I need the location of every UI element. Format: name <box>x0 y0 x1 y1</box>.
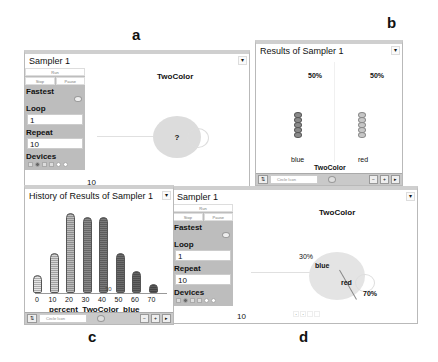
speed-label: Fastest <box>173 221 233 232</box>
plus-button[interactable]: + <box>380 175 389 184</box>
bead-blue <box>294 132 302 138</box>
device-selector <box>173 297 233 306</box>
red-percent: 50% <box>370 72 384 79</box>
histogram-bar <box>132 271 141 293</box>
results-window-b: Results of Sampler 1 ▾ 50% 50% blue red … <box>255 40 403 186</box>
sampler-window-d: Sampler 1 ▾ Run Stop Pause Fastest Loop … <box>172 186 418 324</box>
loop-label: Loop <box>25 102 85 113</box>
bead-red <box>358 132 366 138</box>
device-title: TwoColor <box>319 208 355 217</box>
device-title: TwoColor <box>157 72 193 81</box>
window-title: Results of Sampler 1 <box>256 44 402 58</box>
sort-icon[interactable]: ⇅ <box>27 314 37 323</box>
figure-label-c: c <box>88 328 96 345</box>
repeat-label: Repeat <box>173 262 233 273</box>
device-box-icon[interactable] <box>28 162 33 167</box>
pie-option-button[interactable] <box>314 311 320 317</box>
icon-select[interactable]: Circle Icon <box>39 314 87 323</box>
loop-input[interactable]: 1 <box>27 114 83 125</box>
play-button[interactable]: ▸ <box>391 175 400 184</box>
window-menu-button[interactable]: ▾ <box>391 46 400 55</box>
column-divider <box>334 62 335 162</box>
device-box-icon[interactable] <box>176 298 181 303</box>
device-mixer-icon[interactable] <box>190 298 195 303</box>
device-spinner-icon[interactable] <box>183 298 188 303</box>
sampler-controls: Run Stop Pause Fastest Loop 1 Repeat 10 … <box>25 68 85 170</box>
device-wheel-icon[interactable] <box>211 298 216 303</box>
histogram-bar <box>99 217 108 293</box>
histogram-bar <box>66 213 75 293</box>
results-toolbar: ⇅ Circle Icon − + ▸ <box>256 173 402 185</box>
blue-category-label: blue <box>291 156 304 163</box>
histogram-bar <box>149 284 158 293</box>
plus-button[interactable]: + <box>151 314 160 323</box>
repeat-input[interactable]: 10 <box>175 274 231 285</box>
history-window-c: History of Results of Sampler 1 ▾ 30 010… <box>24 185 174 325</box>
red-slice-label: red <box>341 279 352 286</box>
pause-button[interactable]: Pause <box>204 213 234 221</box>
loop-input[interactable]: 1 <box>175 250 231 261</box>
sort-icon[interactable]: ⇅ <box>258 175 268 184</box>
pause-button[interactable]: Pause <box>56 77 86 85</box>
spinner-unknown-symbol: ? <box>175 133 180 142</box>
device-selector <box>25 161 85 170</box>
pie-minus-button[interactable]: · <box>293 311 299 317</box>
histogram-bar <box>116 253 125 293</box>
histogram-plot <box>29 209 169 293</box>
axis-title: TwoColor <box>314 164 346 171</box>
size-slider[interactable] <box>97 315 105 322</box>
stop-button[interactable]: Stop <box>173 213 203 221</box>
repeat-label: Repeat <box>25 126 85 137</box>
device-stacks-icon[interactable] <box>197 298 202 303</box>
device-stacks-icon[interactable] <box>49 162 54 167</box>
histogram-bar <box>33 275 42 293</box>
speed-label: Fastest <box>25 85 85 96</box>
spinner-handle[interactable] <box>187 128 209 148</box>
device-pie-icon[interactable] <box>204 298 209 303</box>
run-button[interactable]: Run <box>25 68 85 76</box>
minus-button[interactable]: − <box>369 175 378 184</box>
devices-label: Devices <box>25 150 85 161</box>
device-mixer-icon[interactable] <box>42 162 47 167</box>
x-tick-label: 0 <box>35 296 39 303</box>
histogram-bar <box>83 217 92 293</box>
blue-slice-label: blue <box>315 262 329 269</box>
histogram-bar <box>50 253 59 293</box>
pie-controls: · · <box>293 311 320 317</box>
blue-percent: 50% <box>308 72 322 79</box>
play-button[interactable]: ▸ <box>162 314 171 323</box>
device-wheel-icon[interactable] <box>63 162 68 167</box>
red-percent: 70% <box>363 290 377 297</box>
figure-label-d: d <box>299 328 308 345</box>
size-slider[interactable] <box>328 176 336 183</box>
blue-stack <box>294 113 302 138</box>
x-tick-label: 20 <box>65 296 73 303</box>
window-title: Sampler 1 <box>173 190 417 204</box>
minus-button[interactable]: − <box>140 314 149 323</box>
devices-label: Devices <box>173 286 233 297</box>
window-title: Sampler 1 <box>25 54 249 68</box>
sample-count: 10 <box>237 312 246 321</box>
x-tick-label: 70 <box>148 296 156 303</box>
window-menu-button[interactable]: ▾ <box>406 192 415 201</box>
sampler-window-a: Sampler 1 ▾ Run Stop Pause Fastest Loop … <box>24 50 250 188</box>
repeat-input[interactable]: 10 <box>27 138 83 149</box>
figure-label-a: a <box>132 26 140 43</box>
red-stack <box>358 113 366 138</box>
run-button[interactable]: Run <box>173 204 233 212</box>
device-pie-icon[interactable] <box>56 162 61 167</box>
x-tick-label: 50 <box>115 296 123 303</box>
device-spinner-icon[interactable] <box>35 162 40 167</box>
icon-select[interactable]: Circle Icon <box>270 175 318 184</box>
sampler-controls: Run Stop Pause Fastest Loop 1 Repeat 10 … <box>173 204 233 306</box>
window-title: History of Results of Sampler 1 <box>25 189 173 203</box>
pie-option-button[interactable] <box>307 311 313 317</box>
mean-marker-label: 30 <box>105 286 112 292</box>
stop-button[interactable]: Stop <box>25 77 55 85</box>
figure-label-b: b <box>387 14 396 31</box>
pie-plus-button[interactable]: · <box>300 311 306 317</box>
window-menu-button[interactable]: ▾ <box>162 191 171 200</box>
window-menu-button[interactable]: ▾ <box>238 56 247 65</box>
x-tick-label: 10 <box>49 296 57 303</box>
blue-percent: 30% <box>299 253 313 260</box>
